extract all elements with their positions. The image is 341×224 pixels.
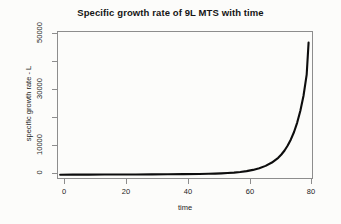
x-axis-tick (311, 179, 312, 184)
x-axis-tick (64, 179, 65, 184)
y-axis-tick-label: 50000 (35, 16, 44, 50)
y-axis-label: specific growth rate - L (24, 49, 33, 159)
x-axis-tick-label: 40 (173, 187, 203, 196)
x-axis-tick (250, 179, 251, 184)
y-axis-tick (52, 89, 57, 90)
chart-plot-area (57, 31, 313, 179)
y-axis-tick-label: 10000 (35, 128, 44, 162)
x-axis-tick-label: 60 (235, 187, 265, 196)
y-axis-tick (52, 61, 57, 62)
x-axis-tick (188, 179, 189, 184)
data-series-line (60, 43, 308, 175)
x-axis-tick-label: 20 (111, 187, 141, 196)
x-axis-label: time (57, 203, 313, 212)
y-axis-tick (52, 117, 57, 118)
y-axis-tick (52, 173, 57, 174)
x-axis-tick-label: 80 (296, 187, 326, 196)
y-axis-tick (52, 145, 57, 146)
x-axis-tick-label: 0 (49, 187, 79, 196)
y-axis-tick (52, 33, 57, 34)
page-title: Specific growth rate of 9L MTS with time (0, 7, 341, 18)
y-axis-tick-label: 30000 (35, 72, 44, 106)
x-axis-tick (126, 179, 127, 184)
chart-screenshot: Specific growth rate of 9L MTS with time… (0, 0, 341, 224)
